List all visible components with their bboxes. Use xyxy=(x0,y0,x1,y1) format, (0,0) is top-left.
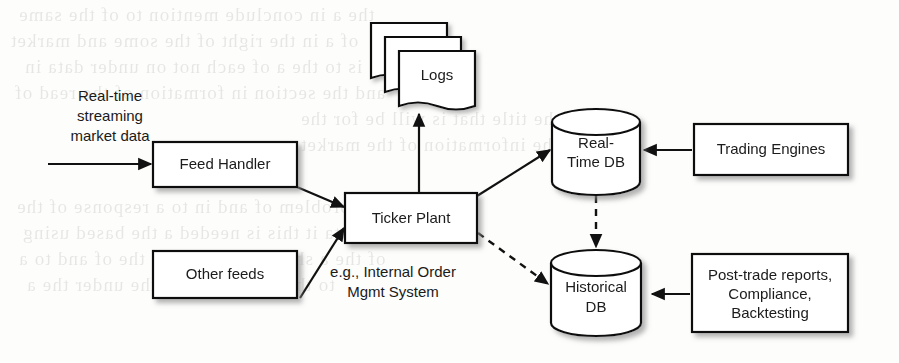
node-logs[interactable]: Logs xyxy=(371,23,475,110)
other-feeds-label: Other feeds xyxy=(186,265,264,282)
realtime-db-top xyxy=(552,109,640,135)
architecture-diagram: Logs Feed Handler Other feeds Ticker Pla… xyxy=(0,0,899,363)
realtime-db-label-line1: Real- xyxy=(578,134,614,151)
node-ticker-plant[interactable]: Ticker Plant xyxy=(345,193,477,243)
post-trade-label-line1: Post-trade reports, xyxy=(708,266,832,283)
node-realtime-db[interactable]: Real- Time DB xyxy=(552,109,640,195)
node-post-trade[interactable]: Post-trade reports, Compliance, Backtest… xyxy=(692,254,848,332)
historical-db-top xyxy=(551,250,641,276)
edge-ticker-plant-to-realtime-db xyxy=(477,150,550,196)
other-feeds-note-line1: e.g., Internal Order xyxy=(330,263,456,280)
input-stream-label-line2: streaming xyxy=(77,107,143,124)
logs-label: Logs xyxy=(421,66,454,83)
realtime-db-label-line2: Time DB xyxy=(567,153,625,170)
post-trade-label-line3: Backtesting xyxy=(731,304,809,321)
historical-db-label-line2: DB xyxy=(586,298,607,315)
ticker-plant-label: Ticker Plant xyxy=(372,209,451,226)
input-stream-label-line1: Real-time xyxy=(78,87,142,104)
post-trade-label-line2: Compliance, xyxy=(728,285,811,302)
feed-handler-label: Feed Handler xyxy=(180,155,271,172)
node-trading-engines[interactable]: Trading Engines xyxy=(694,124,848,175)
edge-ticker-plant-to-historical-db xyxy=(478,233,548,284)
node-feed-handler[interactable]: Feed Handler xyxy=(153,142,297,187)
other-feeds-note-line2: Mgmt System xyxy=(347,283,439,300)
diagram-canvas: the a in conclude mention to of the same… xyxy=(0,0,899,363)
node-historical-db[interactable]: Historical DB xyxy=(551,250,641,336)
trading-engines-label: Trading Engines xyxy=(717,140,826,157)
edge-feed-handler-to-ticker-plant xyxy=(297,187,344,207)
input-stream-label-line3: market data xyxy=(70,127,150,144)
historical-db-label-line1: Historical xyxy=(565,278,627,295)
node-other-feeds[interactable]: Other feeds xyxy=(153,251,297,298)
